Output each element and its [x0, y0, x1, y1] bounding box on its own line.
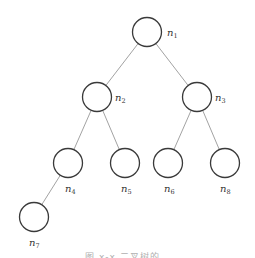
- node-label: n7: [29, 237, 40, 250]
- tree-node-n6: n6: [154, 149, 183, 197]
- tree-node-n2: n2: [83, 83, 126, 112]
- tree-node-n7: n7: [20, 203, 49, 251]
- node-label: n4: [65, 183, 76, 196]
- edge-n3-n6: [174, 110, 191, 149]
- node-label: n6: [164, 183, 175, 196]
- edge-n2-n5: [103, 110, 120, 149]
- node-label: n2: [115, 92, 126, 105]
- tree-node-n1: n1: [133, 18, 178, 47]
- tree-node-n8: n8: [211, 149, 240, 197]
- node-circle: [111, 149, 140, 178]
- tree-node-n4: n4: [54, 149, 83, 197]
- node-circle: [83, 83, 112, 112]
- binary-tree-diagram: n1n2n3n4n5n6n8n7: [0, 0, 255, 258]
- edge-n1-n2: [106, 43, 138, 85]
- tree-edges: [42, 43, 220, 204]
- edge-n2-n4: [74, 110, 91, 149]
- figure-caption: 图 x-x 二叉树的…: [0, 251, 255, 258]
- edge-n1-n3: [156, 43, 188, 85]
- node-circle: [183, 83, 212, 112]
- tree-nodes: n1n2n3n4n5n6n8n7: [20, 18, 240, 251]
- node-label: n5: [121, 183, 132, 196]
- node-circle: [20, 203, 49, 232]
- node-label: n3: [215, 92, 226, 105]
- edge-n3-n8: [203, 110, 220, 149]
- node-label: n1: [167, 27, 178, 40]
- edge-n4-n7: [42, 175, 61, 204]
- node-label: n8: [220, 183, 231, 196]
- node-circle: [133, 18, 162, 47]
- node-circle: [211, 149, 240, 178]
- node-circle: [154, 149, 183, 178]
- tree-node-n5: n5: [111, 149, 140, 197]
- node-circle: [54, 149, 83, 178]
- tree-node-n3: n3: [183, 83, 226, 112]
